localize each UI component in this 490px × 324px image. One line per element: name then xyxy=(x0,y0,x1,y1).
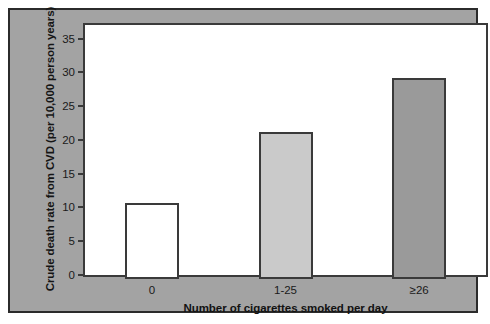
x-tick-label: 1-25 xyxy=(246,284,326,296)
bar-1-25 xyxy=(259,132,313,279)
x-tick-label: 0 xyxy=(112,284,192,296)
y-tick-label: 20 xyxy=(35,134,75,146)
x-axis-title: Number of cigarettes smoked per day xyxy=(83,302,488,314)
y-tick-label: 5 xyxy=(35,235,75,247)
y-tick-label: 30 xyxy=(35,66,75,78)
plot-area xyxy=(83,23,488,277)
y-tick-label: 10 xyxy=(35,201,75,213)
y-tick-label: 25 xyxy=(35,100,75,112)
chart-panel: Crude death rate from CVD (per 10,000 pe… xyxy=(8,8,478,313)
y-tick-label: 15 xyxy=(35,168,75,180)
bar-0 xyxy=(125,203,179,279)
y-tick-label: 0 xyxy=(35,269,75,281)
bar-≥26 xyxy=(392,78,446,279)
y-tick-label: 35 xyxy=(35,33,75,45)
bars-layer xyxy=(85,25,490,279)
y-axis-title: Crude death rate from CVD (per 10,000 pe… xyxy=(44,4,60,294)
x-tick-label: ≥26 xyxy=(379,284,459,296)
